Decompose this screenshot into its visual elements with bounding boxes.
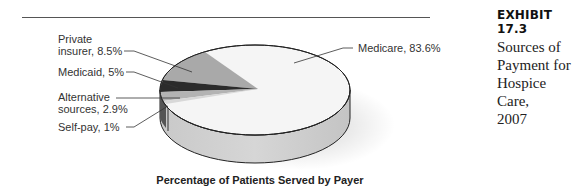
label-private-line1: Private xyxy=(58,33,92,45)
caption-line: Sources of xyxy=(497,38,581,56)
caption-line: 2007 xyxy=(497,110,581,128)
exhibit-caption-text: Sources of Payment for Hospice Care, 200… xyxy=(497,38,581,128)
label-medicare: Medicare, 83.6% xyxy=(358,42,441,54)
label-alternative-line1: Alternative xyxy=(58,91,110,103)
caption-line: Payment for xyxy=(497,56,581,74)
exhibit-caption: EXHIBIT 17.3 Sources of Payment for Hosp… xyxy=(497,8,581,128)
label-medicaid: Medicaid, 5% xyxy=(58,66,124,78)
label-alternative-line2: sources, 2.9% xyxy=(58,103,128,115)
exhibit-number: EXHIBIT 17.3 xyxy=(497,8,581,36)
label-private-line2: insurer, 8.5% xyxy=(58,45,122,57)
chart-title: Percentage of Patients Served by Payer xyxy=(150,174,370,186)
label-selfpay: Self-pay, 1% xyxy=(58,121,120,133)
caption-line: Hospice Care, xyxy=(497,74,581,110)
